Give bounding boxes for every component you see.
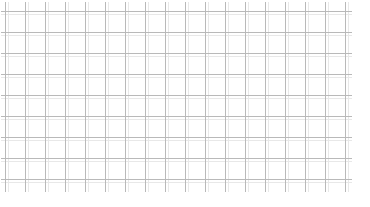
grid-surface [0, 0, 370, 207]
screenshot-canvas [0, 0, 370, 207]
grid-pattern-svg [0, 0, 370, 207]
